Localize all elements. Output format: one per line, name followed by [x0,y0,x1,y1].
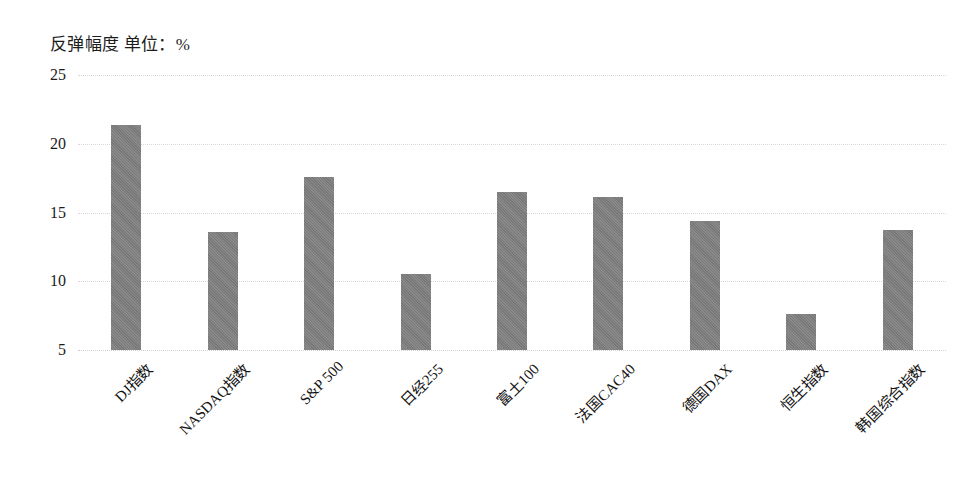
x-axis-tick: 韩国综合指数 [850,358,928,436]
bar [208,232,238,350]
chart-title: 反弹幅度 单位：% [50,30,190,55]
x-axis-labels: DJ指数NASDAQ指数S&P 500日经255富土100法国CAC40德国DA… [78,350,946,480]
x-axis-tick: 法国CAC40 [571,358,639,426]
x-axis-tick-label: 韩国综合指数 [850,358,928,436]
bar [111,125,141,351]
gridline-25 [78,75,946,76]
x-axis-tick-label: 法国CAC40 [571,358,639,426]
x-axis-tick-label: NASDAQ指数 [173,358,253,438]
x-axis-tick-label: 富土100 [491,358,543,410]
y-axis-tick-label: 15 [50,203,66,221]
x-axis-tick: DJ指数 [109,358,157,406]
bar [786,314,816,350]
bar [883,230,913,350]
gridline-20 [78,144,946,145]
x-axis-tick: 德国DAX [677,358,736,417]
x-axis-tick-label: S&P 500 [297,358,347,408]
bar-chart: 反弹幅度 单位：% 252015105 DJ指数NASDAQ指数S&P 500日… [0,0,955,490]
y-axis-tick-label: 5 [58,341,66,359]
x-axis-tick: 日经255 [394,358,446,410]
x-axis-tick-label: 恒生指数 [775,358,832,415]
plot-area: 252015105 [78,75,946,350]
bar [497,192,527,350]
x-axis-tick-label: DJ指数 [109,358,157,406]
x-axis-tick: NASDAQ指数 [173,358,253,438]
x-axis-tick: 恒生指数 [775,358,832,415]
x-axis-tick: 富土100 [491,358,543,410]
x-axis-tick: S&P 500 [297,358,347,408]
x-axis-tick-label: 日经255 [394,358,446,410]
bar [593,197,623,350]
y-axis-tick-label: 10 [50,272,66,290]
y-axis-tick-label: 20 [50,134,66,152]
bar [690,221,720,350]
x-axis-tick-label: 德国DAX [677,358,736,417]
bar [304,177,334,350]
y-axis-tick-label: 25 [50,66,66,84]
bar [401,274,431,350]
